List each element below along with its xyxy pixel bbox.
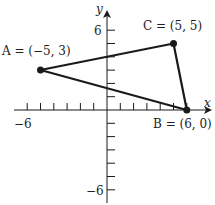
x-min-tick-label: −6 xyxy=(14,117,32,131)
segment-cb xyxy=(174,44,187,111)
point-c xyxy=(170,40,177,47)
point-b-label: B = (6, 0) xyxy=(153,117,212,131)
point-b xyxy=(183,107,190,114)
x-axis-label: x xyxy=(204,96,211,110)
point-a xyxy=(37,67,44,74)
y-max-tick-label: 6 xyxy=(94,24,102,38)
segment-ba xyxy=(41,70,187,110)
y-axis-label: y xyxy=(95,2,103,16)
point-a-label: A = (−5, 3) xyxy=(1,44,71,58)
coordinate-diagram: y x 6 −6 −6 A = (−5, 3) C = (5, 5) B = (… xyxy=(0,0,215,205)
point-c-label: C = (5, 5) xyxy=(143,19,202,33)
y-min-tick-label: −6 xyxy=(86,184,104,198)
